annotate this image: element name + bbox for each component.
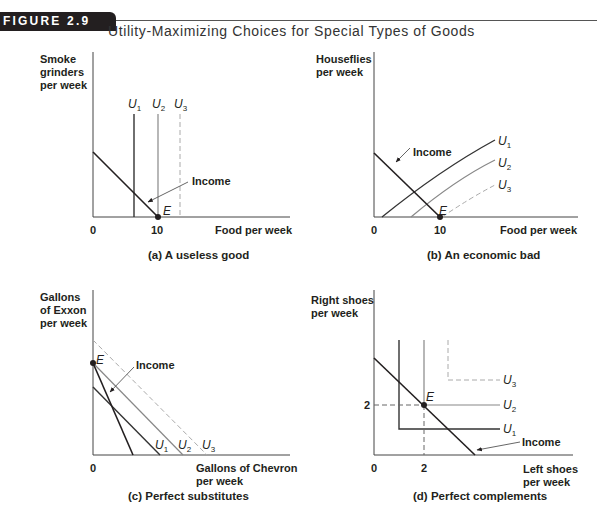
income-line xyxy=(93,152,158,217)
panel-c-u2-label: U2 xyxy=(178,438,191,454)
panel-d-income-label: Income xyxy=(522,436,561,449)
panel-d-origin: 0 xyxy=(371,462,377,474)
panel-d-plot xyxy=(374,290,573,455)
income-line xyxy=(93,363,133,455)
panel-d-y-tick: 2 xyxy=(364,399,370,411)
panel-a-x-tick: 10 xyxy=(151,224,163,236)
panel-c-u3-label: U3 xyxy=(202,438,215,454)
panel-d-x-label: Left shoesper week xyxy=(523,463,578,489)
u1-curve xyxy=(399,340,500,429)
panel-c-caption: (c) Perfect substitutes xyxy=(128,490,249,502)
u2-curve xyxy=(411,160,495,217)
panel-b-u2-label: U2 xyxy=(498,156,511,172)
panel-c-x-label: Gallons of Chevronper week xyxy=(196,462,297,488)
income-arrow xyxy=(396,148,410,162)
panel-c-plot xyxy=(90,290,290,455)
panel-c-origin: 0 xyxy=(90,462,96,474)
panel-b-x-tick: 10 xyxy=(434,224,446,236)
panel-d-caption: (d) Perfect complements xyxy=(413,490,547,502)
panel-c-income-label: Income xyxy=(136,359,175,372)
panel-a-u1-label: U1 xyxy=(128,97,141,113)
panel-a-y-label: Smokegrindersper week xyxy=(40,53,87,92)
income-arrow xyxy=(110,367,134,392)
panel-b-u3-label: U3 xyxy=(498,178,511,194)
u2-curve xyxy=(424,340,500,405)
panel-a-u3-label: U3 xyxy=(174,97,187,113)
panel-b-u1-label: U1 xyxy=(498,134,511,150)
equilibrium-point xyxy=(155,214,161,220)
u3-curve xyxy=(448,340,500,380)
panel-b-equilibrium-label: E xyxy=(439,204,447,218)
panel-a-income-label: Income xyxy=(192,175,231,188)
panel-a-u2-label: U2 xyxy=(152,97,165,113)
panel-a-origin: 0 xyxy=(90,224,96,236)
panel-b-caption: (b) An economic bad xyxy=(427,249,540,261)
panel-b-plot xyxy=(374,52,578,220)
income-arrow xyxy=(148,182,188,202)
panel-d-u1-label: U1 xyxy=(503,422,516,438)
panel-c-y-label: Gallonsof Exxonper week xyxy=(40,291,87,330)
panel-c-equilibrium-label: E xyxy=(96,353,104,367)
panel-d-u3-label: U3 xyxy=(503,373,516,389)
u3-curve xyxy=(442,185,495,217)
income-line xyxy=(374,153,440,217)
panel-b-income-label: Income xyxy=(413,146,452,159)
panel-d-equilibrium-label: E xyxy=(426,390,434,404)
panel-b-x-label: Food per week xyxy=(500,224,577,237)
panel-a-caption: (a) A useless good xyxy=(148,249,249,261)
panel-b-y-label: Housefliesper week xyxy=(316,53,372,79)
u2-curve xyxy=(93,363,183,455)
panel-a-plot xyxy=(93,52,290,220)
panel-d-y-label: Right shoesper week xyxy=(311,294,374,320)
panel-d-u2-label: U2 xyxy=(503,398,516,414)
panel-d-x-tick: 2 xyxy=(421,462,427,474)
panel-a-equilibrium-label: E xyxy=(163,204,171,218)
income-arrow xyxy=(477,442,520,450)
panel-b-origin: 0 xyxy=(371,224,377,236)
panel-c-u1-label: U1 xyxy=(155,438,168,454)
panel-a-x-label: Food per week xyxy=(215,224,292,237)
